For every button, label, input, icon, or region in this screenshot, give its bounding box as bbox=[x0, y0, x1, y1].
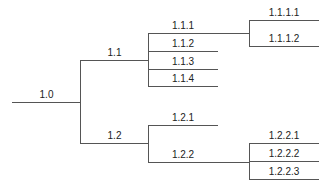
branch-line-1-1-2 bbox=[148, 51, 218, 52]
node-label-1-2-2-2: 1.2.2.2 bbox=[249, 149, 319, 159]
tree-diagram: 1.0 1.1 1.1.1 1.1.2 1.1.3 1.1.4 1.1.1.1 … bbox=[0, 0, 324, 185]
branch-line-1-1-1 bbox=[148, 33, 250, 34]
node-label-1-1: 1.1 bbox=[80, 48, 149, 58]
branch-line-1-2-2-1 bbox=[249, 143, 319, 144]
branch-line-1-1-3 bbox=[148, 69, 218, 70]
node-label-1-2: 1.2 bbox=[80, 131, 149, 141]
branch-line-1-2-2-2 bbox=[249, 161, 319, 162]
node-label-1-1-1-2: 1.1.1.2 bbox=[249, 34, 319, 44]
node-label-1-1-1-1: 1.1.1.1 bbox=[249, 8, 319, 18]
branch-line-1-0 bbox=[12, 102, 81, 103]
node-label-1-2-2-3: 1.2.2.3 bbox=[249, 167, 319, 177]
node-label-1-1-3: 1.1.3 bbox=[148, 57, 218, 67]
branch-line-1-2-2-3 bbox=[249, 179, 319, 180]
branch-line-1-2-2 bbox=[148, 162, 250, 163]
node-label-1-1-2: 1.1.2 bbox=[148, 39, 218, 49]
node-label-1-1-1: 1.1.1 bbox=[148, 21, 218, 31]
branch-line-1-2 bbox=[80, 143, 149, 144]
node-label-1-2-1: 1.2.1 bbox=[148, 113, 218, 123]
node-label-1-0: 1.0 bbox=[12, 90, 81, 100]
branch-line-1-1-1-2 bbox=[249, 46, 319, 47]
branch-line-1-1-1-1 bbox=[249, 20, 319, 21]
branch-line-1-1-4 bbox=[148, 86, 218, 87]
branch-line-1-2-1 bbox=[148, 125, 218, 126]
node-label-1-2-2-1: 1.2.2.1 bbox=[249, 131, 319, 141]
node-label-1-1-4: 1.1.4 bbox=[148, 74, 218, 84]
branch-line-1-1 bbox=[80, 60, 149, 61]
node-label-1-2-2: 1.2.2 bbox=[148, 150, 218, 160]
